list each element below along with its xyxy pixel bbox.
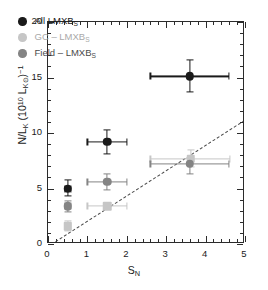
data-point	[63, 202, 72, 211]
y-error-cap	[64, 180, 71, 181]
x-error-cap	[229, 73, 230, 80]
x-tick-label: 1	[75, 248, 97, 259]
y-error-cap	[64, 231, 71, 232]
x-error-cap	[87, 178, 88, 185]
legend-item-all[interactable]: All LMXBS	[18, 14, 96, 29]
legend-label: Field – LMXBS	[35, 48, 96, 59]
y-tick	[48, 244, 54, 245]
y-tick-right	[237, 244, 243, 245]
x-error-cap	[126, 178, 127, 185]
x-error-cap	[87, 203, 88, 210]
x-tick-label: 2	[115, 248, 137, 259]
y-error-cap	[104, 129, 111, 130]
data-point	[103, 138, 112, 147]
data-point	[186, 159, 195, 168]
y-error-cap	[186, 91, 193, 92]
y-error-cap	[104, 153, 111, 154]
data-point	[103, 178, 112, 187]
x-error-cap	[126, 203, 127, 210]
y-error-cap	[64, 195, 71, 196]
x-error-cap	[126, 138, 127, 145]
y-error-cap	[104, 173, 111, 174]
legend-label: All LMXBS	[35, 16, 79, 27]
y-tick-label: 5	[20, 182, 42, 193]
y-tick-label: 0	[20, 237, 42, 248]
x-tick-label: 3	[154, 248, 176, 259]
x-tick	[245, 236, 246, 242]
x-tick-label: 5	[233, 248, 255, 259]
x-error-cap	[229, 160, 230, 167]
x-axis-title: SN	[0, 264, 268, 278]
x-error-cap	[150, 160, 151, 167]
x-tick-label: 0	[36, 248, 58, 259]
y-error-cap	[104, 190, 111, 191]
y-error-cap	[187, 150, 194, 151]
legend-item-gc[interactable]: GC – LMXBS	[18, 30, 96, 45]
y-error-cap	[64, 211, 71, 212]
y-axis-title-text: N/LK (1010 LK⊙)−1	[16, 66, 28, 145]
x-tick-label: 4	[194, 248, 216, 259]
data-point	[103, 202, 112, 211]
legend-label: GC – LMXBS	[35, 32, 90, 43]
x-axis-title-text: SN	[128, 264, 140, 276]
x-error-cap	[150, 73, 151, 80]
figure: 012345 05101520 SN N/LK (1010 LK⊙)−1 All…	[0, 0, 268, 290]
x-error-cap	[87, 138, 88, 145]
legend-item-field[interactable]: Field – LMXBS	[18, 46, 96, 61]
data-point	[63, 222, 72, 231]
legend: All LMXBSGC – LMXBSField – LMXBS	[18, 14, 96, 62]
data-point	[186, 72, 195, 81]
legend-marker-icon	[18, 49, 27, 58]
legend-marker-icon	[18, 33, 27, 42]
legend-marker-icon	[18, 17, 27, 26]
y-error-cap	[186, 173, 193, 174]
data-point	[63, 184, 72, 193]
x-tick-top	[245, 22, 246, 28]
dashed-reference-line	[51, 120, 243, 242]
y-error-cap	[186, 60, 193, 61]
